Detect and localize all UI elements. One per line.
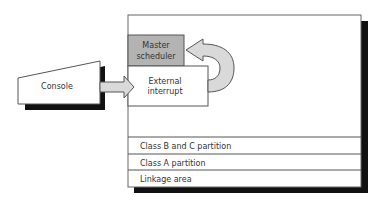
master-scheduler-box: [128, 35, 184, 66]
master-scheduler-label-2: scheduler: [136, 52, 176, 61]
diagram-canvas: Class B and C partition Class A partitio…: [0, 0, 387, 205]
external-interrupt-box: [128, 66, 208, 106]
partition-class-a: Class A partition: [140, 159, 206, 168]
partition-class-b-c: Class B and C partition: [140, 142, 231, 151]
master-scheduler-label-1: Master: [142, 41, 170, 50]
console-label: Console: [41, 82, 73, 91]
partition-linkage-area: Linkage area: [140, 175, 192, 184]
external-interrupt-label-2: interrupt: [147, 87, 182, 96]
external-interrupt-label-1: External: [148, 77, 181, 86]
